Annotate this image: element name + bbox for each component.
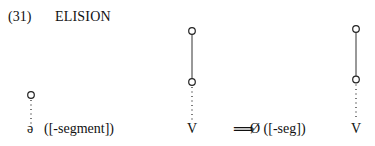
segment-feature: ([-segment]) <box>44 121 114 137</box>
vowel-segment-right: V <box>351 121 361 137</box>
timing-node <box>28 92 35 99</box>
timing-node <box>353 26 360 33</box>
vowel-segment: V <box>187 121 197 137</box>
null-result: Ø ([-seg]) <box>250 121 306 137</box>
timing-node <box>189 28 196 35</box>
schwa-segment: ə <box>27 121 33 137</box>
timing-node <box>189 79 196 86</box>
right-tier <box>353 26 360 120</box>
middle-tier <box>189 28 196 120</box>
left-tier <box>28 92 35 124</box>
timing-node <box>353 76 360 83</box>
